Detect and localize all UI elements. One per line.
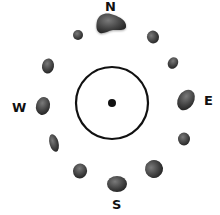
- stone-ssw: [71, 162, 89, 181]
- stone-west: [34, 95, 52, 116]
- stone-nnw: [73, 30, 83, 40]
- stone-nne: [145, 29, 161, 45]
- label-south: S: [112, 198, 121, 211]
- label-north: N: [105, 0, 116, 13]
- stone-sse: [142, 157, 167, 182]
- stone-east: [174, 86, 199, 113]
- label-east: E: [204, 94, 213, 107]
- label-west: W: [12, 101, 26, 114]
- stone-ene: [166, 55, 181, 70]
- stone-ese: [178, 133, 190, 146]
- diagram-canvas: [0, 0, 220, 215]
- stone-wsw: [47, 133, 60, 153]
- stone-north: [96, 13, 126, 34]
- stone-wnw: [41, 58, 55, 75]
- stone-south: [107, 176, 127, 192]
- stone-circle-diagram: N E S W: [0, 0, 220, 215]
- center-dot: [108, 99, 116, 107]
- stones: [34, 13, 199, 192]
